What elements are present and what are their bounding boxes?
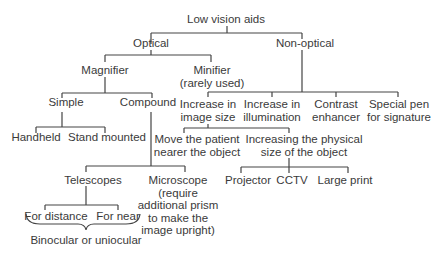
node-projector: Projector xyxy=(225,174,271,187)
node-contrast-enhancer: Contrast enhancer xyxy=(312,98,360,123)
node-move-patient: Move the patient nearer the object xyxy=(154,133,240,158)
node-optical: Optical xyxy=(133,37,169,50)
node-compound: Compound xyxy=(120,96,176,109)
node-increase-illumination: Increase in illumination xyxy=(243,98,301,123)
node-handheld: Handheld xyxy=(11,131,60,144)
node-stand-mounted: Stand mounted xyxy=(68,131,146,144)
node-microscope: Microscope (require additional prism to … xyxy=(138,174,219,237)
node-non-optical: Non-optical xyxy=(276,37,334,50)
node-simple: Simple xyxy=(48,96,83,109)
node-minifier: Minifier (rarely used) xyxy=(180,64,245,89)
node-telescopes: Telescopes xyxy=(64,174,122,187)
node-special-pen: Special pen for signature xyxy=(367,98,431,123)
node-cctv: CCTV xyxy=(276,174,307,187)
node-binocular-or-uniocular: Binocular or uniocular xyxy=(30,234,141,247)
node-large-print: Large print xyxy=(318,174,373,187)
node-for-distance: For distance xyxy=(24,210,87,223)
low-vision-aids-diagram: Low vision aids Optical Non-optical Magn… xyxy=(0,0,441,257)
node-for-near: For near xyxy=(96,210,139,223)
node-root: Low vision aids xyxy=(187,13,265,26)
node-increase-image-size: Increase in image size xyxy=(180,98,236,123)
node-increasing-physical-size: Increasing the physical size of the obje… xyxy=(246,133,363,158)
node-magnifier: Magnifier xyxy=(81,64,128,77)
